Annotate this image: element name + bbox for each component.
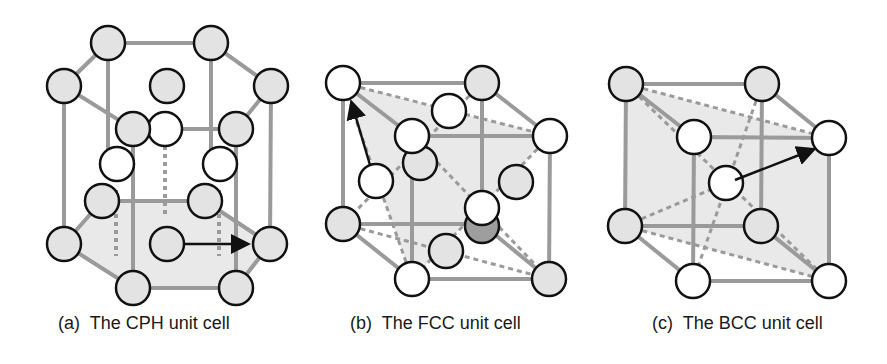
atom	[609, 67, 643, 101]
atom	[465, 66, 499, 100]
atom	[395, 119, 429, 153]
atom	[432, 94, 466, 128]
atom	[148, 112, 182, 146]
atom	[47, 69, 81, 103]
atom	[745, 67, 779, 101]
atom	[608, 209, 642, 243]
atom	[116, 271, 150, 305]
bcc-unit-cell	[608, 67, 846, 298]
atom	[254, 69, 288, 103]
atom	[744, 209, 778, 243]
atom	[812, 121, 846, 155]
atom	[812, 264, 846, 298]
caption-bcc: (c) The BCC unit cell	[652, 313, 823, 334]
atom	[326, 66, 360, 100]
atom	[465, 191, 499, 225]
atom	[677, 120, 711, 154]
atom	[47, 227, 81, 261]
atom	[116, 112, 150, 146]
atom	[219, 271, 253, 305]
atom	[429, 234, 463, 268]
caption-fcc: (b) The FCC unit cell	[350, 313, 521, 334]
cph-unit-cell	[47, 26, 288, 305]
atom	[219, 112, 253, 146]
crystal-unit-cells-diagram	[0, 0, 887, 364]
atom	[85, 184, 119, 218]
caption-cph: (a) The CPH unit cell	[58, 313, 230, 334]
atom	[532, 262, 566, 296]
atom	[395, 262, 429, 296]
atom	[533, 119, 567, 153]
atom	[203, 147, 237, 181]
fcc-unit-cell	[326, 66, 567, 296]
atom	[150, 69, 184, 103]
atom	[326, 207, 360, 241]
atom	[150, 227, 184, 261]
atom	[676, 264, 710, 298]
atom	[253, 227, 287, 261]
atom	[100, 147, 134, 181]
atom	[194, 26, 228, 60]
atom	[91, 26, 125, 60]
atom	[499, 165, 533, 199]
atom	[359, 164, 393, 198]
atom-body-center	[709, 166, 743, 200]
atom	[188, 184, 222, 218]
